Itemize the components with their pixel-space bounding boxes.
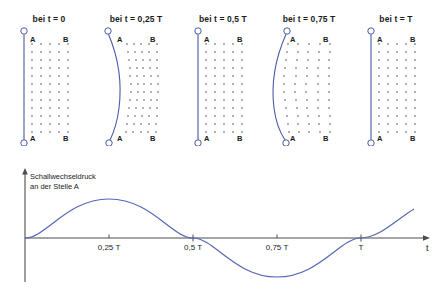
panel-t0: bei t = 0 A B A: [6, 0, 92, 150]
point-label-b-bottom: B: [63, 134, 68, 143]
y-axis-caption-line1: Schallwechseldruck: [30, 172, 96, 182]
membrane-straight: [21, 28, 27, 146]
point-label-b-bottom: B: [323, 134, 328, 143]
panel-diagram-t025: [93, 26, 179, 146]
panel-t075: bei t = 0,75 T A B: [266, 0, 352, 150]
air-particles-compressed-right: [125, 43, 159, 133]
x-tick-label-05T: 0,5 T: [184, 243, 202, 252]
panel-title: bei t = 0,25 T: [93, 14, 179, 24]
point-label-b-top: B: [410, 35, 415, 44]
point-label-b-bottom: B: [150, 134, 155, 143]
point-label-b-top: B: [63, 35, 68, 44]
point-label-b-bottom: B: [410, 134, 415, 143]
panel-title: bei t = T: [353, 14, 439, 24]
point-label-b-bottom: B: [237, 134, 242, 143]
point-label-b-top: B: [150, 35, 155, 44]
y-axis: [22, 168, 28, 282]
point-label-a-bottom: A: [117, 134, 122, 143]
panel-title: bei t = 0,5 T: [180, 14, 266, 24]
panel-diagram-t05: [180, 26, 266, 146]
point-label-a-top: A: [290, 35, 295, 44]
point-label-b-top: B: [237, 35, 242, 44]
x-axis: [25, 235, 430, 241]
point-label-a-top: A: [377, 35, 382, 44]
air-particles-uniform: [31, 43, 69, 133]
point-label-a-top: A: [204, 35, 209, 44]
wave-panels-row: bei t = 0 A B A: [0, 0, 442, 150]
panel-diagram-t075: [266, 26, 352, 146]
x-tick-label-025T: 0,25 T: [98, 243, 121, 252]
y-axis-caption: Schallwechseldruck an der Stelle A: [30, 172, 96, 192]
point-label-a-bottom: A: [377, 134, 382, 143]
panel-title: bei t = 0,75 T: [266, 14, 352, 24]
x-tick-label-075T: 0,75 T: [266, 243, 289, 252]
panel-tT: bei t = T A B A: [353, 0, 439, 150]
point-label-a-bottom: A: [290, 134, 295, 143]
point-label-a-bottom: A: [30, 134, 35, 143]
panel-diagram-tT: [353, 26, 439, 146]
membrane-bulge-right: [105, 28, 120, 146]
panel-t05: bei t = 0,5 T A B: [180, 0, 266, 150]
membrane-bulge-left: [273, 28, 290, 146]
panel-title: bei t = 0: [6, 14, 92, 24]
panel-t025: bei t = 0,25 T A B: [93, 0, 179, 150]
y-axis-caption-line2: an der Stelle A: [30, 182, 96, 192]
membrane-straight: [368, 28, 374, 146]
point-label-a-top: A: [117, 35, 122, 44]
point-label-b-top: B: [323, 35, 328, 44]
pressure-time-chart: Schallwechseldruck an der Stelle A 0,25 …: [0, 160, 442, 290]
point-label-a-top: A: [30, 35, 35, 44]
point-label-a-bottom: A: [204, 134, 209, 143]
x-tick-label-T: T: [359, 243, 364, 252]
panel-diagram-t0: [6, 26, 92, 146]
air-particles-uniform: [205, 43, 243, 133]
air-particles-uniform: [378, 43, 416, 133]
air-particles-rarefied-left: [283, 43, 331, 133]
membrane-straight: [195, 28, 201, 146]
x-axis-label: t: [426, 243, 429, 253]
